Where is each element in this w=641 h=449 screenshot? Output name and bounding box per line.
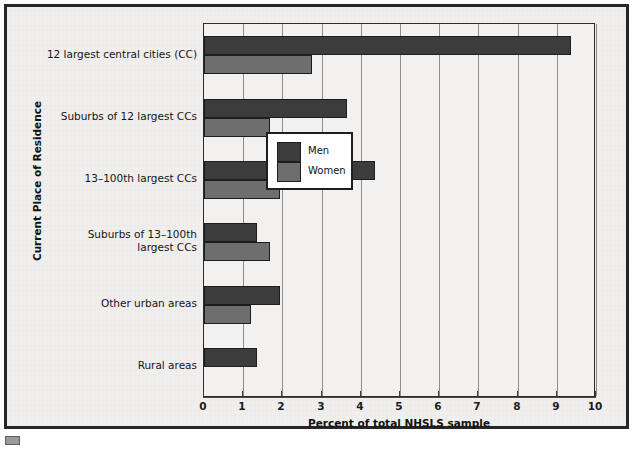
x-tick-7 [477, 391, 478, 398]
x-tick-label-4: 4 [340, 400, 380, 412]
legend-label-women: Women [308, 165, 346, 176]
gridline-x-1 [243, 24, 244, 396]
bar-men-3 [204, 223, 257, 242]
y-axis-tick-labels: 12 largest central cities (CC)Suburbs of… [15, 23, 197, 397]
figure-frame: Current Place of Residence 12 largest ce… [4, 4, 629, 429]
x-tick-label-3: 3 [301, 400, 341, 412]
legend-label-men: Men [308, 145, 329, 156]
x-tick-label-2: 2 [261, 400, 301, 412]
bar-women-3 [204, 242, 270, 261]
x-tick-3 [321, 391, 322, 398]
category-label-5: Rural areas [17, 359, 197, 372]
gridline-x-9 [557, 24, 558, 396]
category-label-3: Suburbs of 13–100thlargest CCs [17, 228, 197, 254]
category-label-2: 13–100th largest CCs [17, 172, 197, 185]
x-tick-6 [438, 391, 439, 398]
x-tick-9 [556, 391, 557, 398]
category-label-0: 12 largest central cities (CC) [17, 48, 197, 61]
x-tick-label-7: 7 [457, 400, 497, 412]
x-tick-label-1: 1 [222, 400, 262, 412]
bar-women-4 [204, 305, 251, 324]
bar-men-1 [204, 99, 347, 118]
x-tick-1 [242, 391, 243, 398]
bar-men-4 [204, 286, 280, 305]
gridline-x-2 [282, 24, 283, 396]
legend-swatch-men [277, 142, 301, 162]
bar-men-5 [204, 348, 257, 367]
gridline-x-8 [518, 24, 519, 396]
bar-women-0 [204, 55, 312, 74]
x-tick-label-10: 10 [575, 400, 615, 412]
gridline-x-10 [596, 24, 597, 396]
x-tick-label-6: 6 [418, 400, 458, 412]
x-tick-10 [595, 391, 596, 398]
x-axis-title: Percent of total NHSLS sample [203, 417, 595, 429]
bar-men-0 [204, 36, 571, 55]
gridline-x-4 [361, 24, 362, 396]
chart-legend: Men Women [266, 132, 353, 190]
x-tick-4 [360, 391, 361, 398]
category-label-4: Other urban areas [17, 297, 197, 310]
bar-women-1 [204, 118, 270, 137]
x-tick-label-8: 8 [497, 400, 537, 412]
x-tick-2 [281, 391, 282, 398]
figure: Current Place of Residence 12 largest ce… [0, 0, 641, 449]
x-tick-label-0: 0 [183, 400, 223, 412]
gridline-x-5 [400, 24, 401, 396]
x-tick-label-5: 5 [379, 400, 419, 412]
gridline-x-6 [439, 24, 440, 396]
plot-area [203, 23, 595, 397]
legend-swatch-women [277, 162, 301, 182]
gridline-x-7 [478, 24, 479, 396]
page-corner-mark [5, 436, 20, 445]
x-tick-8 [517, 391, 518, 398]
x-tick-label-9: 9 [536, 400, 576, 412]
gridline-x-3 [322, 24, 323, 396]
category-label-1: Suburbs of 12 largest CCs [17, 110, 197, 123]
x-tick-0 [203, 391, 204, 398]
x-tick-5 [399, 391, 400, 398]
